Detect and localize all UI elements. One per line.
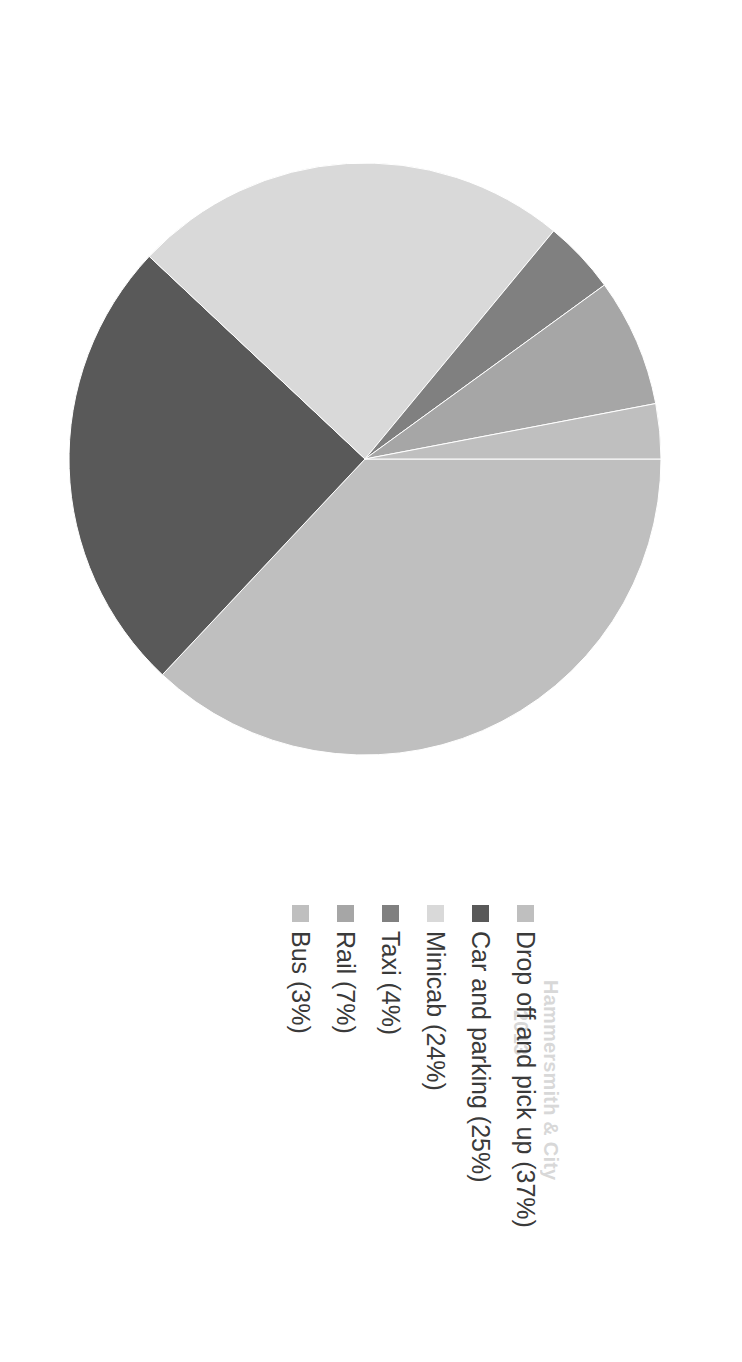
pie-svg [66, 160, 664, 758]
legend-item[interactable]: Rail (7%) [326, 905, 366, 1325]
legend-item[interactable]: Taxi (4%) [371, 905, 411, 1325]
legend-swatch-icon [383, 905, 400, 922]
legend-label: Taxi (4%) [379, 931, 404, 1035]
legend-label: Minicab (24%) [424, 931, 449, 1091]
legend-swatch-icon [293, 905, 310, 922]
pie-chart-figure: Hammersmith & City 2013 Drop off and pic… [0, 0, 742, 1362]
legend-swatch-icon [338, 905, 355, 922]
legend-item[interactable]: Drop off and pick up (37%) [506, 905, 546, 1325]
legend-item[interactable]: Car and parking (25%) [461, 905, 501, 1325]
chart-legend: Drop off and pick up (37%)Car and parkin… [276, 905, 546, 1325]
legend-label: Drop off and pick up (37%) [514, 931, 539, 1228]
figure-rotation-container: Hammersmith & City 2013 Drop off and pic… [0, 0, 742, 1362]
legend-item[interactable]: Minicab (24%) [416, 905, 456, 1325]
legend-swatch-icon [473, 905, 490, 922]
pie-plot-area [66, 160, 664, 758]
legend-label: Car and parking (25%) [469, 931, 494, 1183]
legend-item[interactable]: Bus (3%) [281, 905, 321, 1325]
legend-swatch-icon [428, 905, 445, 922]
pie-slice-group [69, 163, 661, 755]
legend-label: Bus (3%) [289, 931, 314, 1034]
legend-label: Rail (7%) [334, 931, 359, 1034]
legend-swatch-icon [518, 905, 535, 922]
